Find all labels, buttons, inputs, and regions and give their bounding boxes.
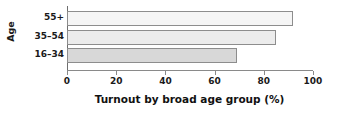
- plot-area: [67, 6, 313, 70]
- x-axis-title: Turnout by broad age group (%): [0, 93, 345, 105]
- x-axis-tick-100: [313, 71, 314, 75]
- bar-chart-figure: Age 55+ 35–54 16–34 020406080100 Turnout…: [0, 0, 345, 116]
- bar-16-34: [67, 48, 237, 63]
- y-tick-label-16-34: 16–34: [14, 49, 64, 59]
- x-axis-tick-0: [67, 71, 68, 75]
- x-axis-tick-label-40: 40: [145, 76, 185, 86]
- x-axis-tick-label-100: 100: [293, 76, 333, 86]
- x-axis-tick-80: [264, 71, 265, 75]
- bar-55-plus: [67, 11, 293, 26]
- x-axis-tick-20: [116, 71, 117, 75]
- x-axis-tick-label-60: 60: [195, 76, 235, 86]
- x-axis-tick-label-20: 20: [96, 76, 136, 86]
- y-tick-label-35-54: 35–54: [14, 31, 64, 41]
- x-axis-spine: [67, 70, 313, 71]
- y-tick-label-55-plus: 55+: [14, 12, 64, 22]
- x-axis-tick-label-0: 0: [47, 76, 87, 86]
- bar-35-54: [67, 30, 276, 45]
- x-axis-tick-label-80: 80: [244, 76, 284, 86]
- x-axis-tick-40: [165, 71, 166, 75]
- x-axis-tick-60: [215, 71, 216, 75]
